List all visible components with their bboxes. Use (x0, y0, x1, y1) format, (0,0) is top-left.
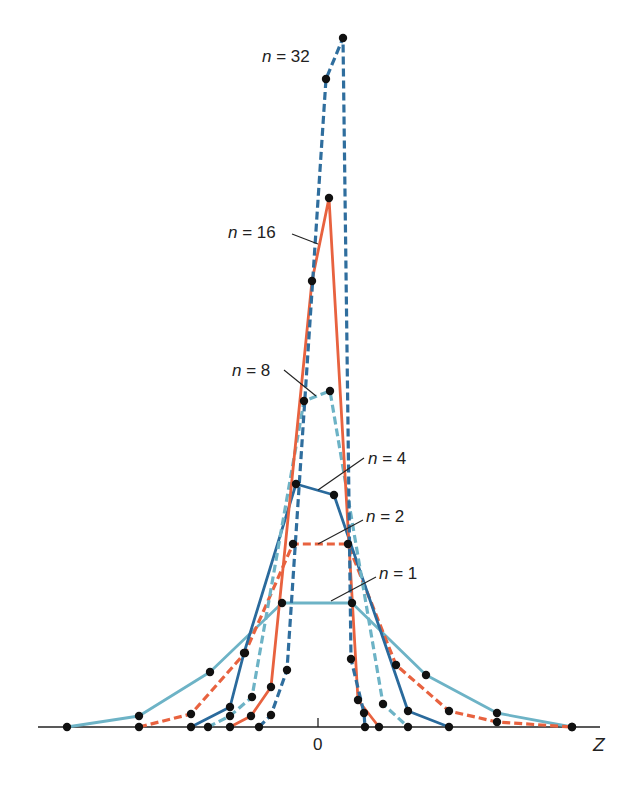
data-point (344, 540, 352, 548)
data-point (493, 709, 501, 717)
series-line-n32 (259, 38, 365, 727)
data-point (255, 723, 263, 731)
series-label: n = 1 (379, 565, 417, 582)
series-label: n = 4 (368, 450, 406, 467)
data-point (330, 491, 338, 499)
leader-line (318, 458, 364, 490)
data-point (322, 75, 330, 83)
series-label: n = 16 (228, 224, 276, 241)
data-point (445, 707, 453, 715)
x-axis-label: Z (593, 735, 605, 754)
data-point (375, 723, 383, 731)
data-point (361, 723, 369, 731)
series-label: n = 32 (262, 48, 310, 65)
data-point (63, 723, 71, 731)
data-point (187, 710, 195, 718)
data-point (493, 718, 501, 726)
x-tick-zero: 0 (313, 736, 322, 753)
data-points (63, 34, 576, 731)
data-point (404, 723, 412, 731)
data-point (267, 683, 275, 691)
data-point (326, 387, 334, 395)
data-point (247, 712, 255, 720)
data-point (422, 671, 430, 679)
data-point (204, 723, 212, 731)
data-point (379, 700, 387, 708)
data-point (339, 34, 347, 42)
series-line-n1 (67, 603, 572, 727)
series-label: n = 2 (366, 508, 404, 525)
data-point (226, 723, 234, 731)
data-point (248, 693, 256, 701)
data-point (348, 599, 356, 607)
chart-canvas (0, 0, 641, 795)
data-point (347, 655, 355, 663)
data-point (300, 397, 308, 405)
data-point (392, 661, 400, 669)
data-point (308, 277, 316, 285)
data-point (240, 649, 248, 657)
data-point (292, 480, 300, 488)
data-point (360, 709, 368, 717)
series-label: n = 8 (232, 362, 270, 379)
series-line-n4 (191, 484, 449, 727)
data-point (445, 723, 453, 731)
data-point (325, 194, 333, 202)
data-point (226, 703, 234, 711)
data-point (568, 723, 576, 731)
data-point (267, 711, 275, 719)
data-point (354, 696, 362, 704)
data-point (135, 723, 143, 731)
data-point (404, 707, 412, 715)
data-point (283, 666, 291, 674)
data-point (135, 712, 143, 720)
data-point (206, 668, 214, 676)
data-point (289, 540, 297, 548)
series-layer (67, 38, 572, 727)
data-point (278, 599, 286, 607)
data-point (187, 723, 195, 731)
data-point (226, 712, 234, 720)
